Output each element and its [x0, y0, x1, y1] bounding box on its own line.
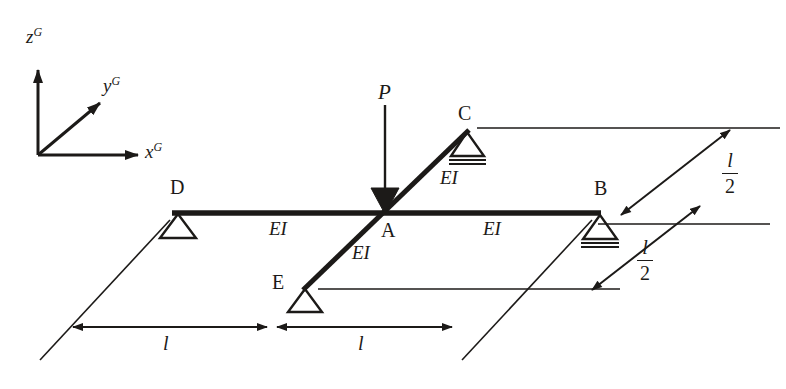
node-label-A: A — [381, 220, 395, 240]
axis-label-x: xG — [145, 141, 162, 161]
support-B — [581, 215, 619, 247]
fraction-bar — [722, 173, 738, 174]
member-label-DA: EI — [269, 219, 287, 238]
extension-line-d — [40, 220, 170, 360]
member-label-EA: EI — [352, 243, 370, 262]
fraction-bar — [637, 260, 653, 261]
member-label-AB: EI — [483, 219, 501, 238]
support-C — [449, 132, 486, 164]
node-label-D: D — [170, 177, 184, 197]
node-label-B: B — [594, 178, 607, 198]
dim-line-upper-right — [621, 130, 730, 215]
axis-label-y: yG — [103, 75, 120, 95]
axis-label-z: zG — [26, 26, 42, 46]
node-label-E: E — [272, 272, 284, 292]
global-axes — [38, 70, 138, 155]
dim-label-upper-right: l 2 — [722, 150, 738, 197]
dimension-lines — [73, 130, 730, 327]
node-label-C: C — [458, 103, 471, 123]
y-axis-arrow — [38, 103, 100, 155]
dim-label-lower-right: l 2 — [637, 237, 653, 284]
extension-line-b — [462, 220, 592, 360]
dim-label-right: l — [358, 333, 364, 353]
member-label-AC: EI — [440, 168, 458, 187]
construction-lines — [40, 128, 780, 360]
load-arrow-P — [371, 105, 399, 214]
dim-label-left: l — [163, 333, 169, 353]
frame-diagram — [0, 0, 786, 389]
support-E — [288, 289, 322, 312]
load-label-P: P — [378, 82, 391, 103]
